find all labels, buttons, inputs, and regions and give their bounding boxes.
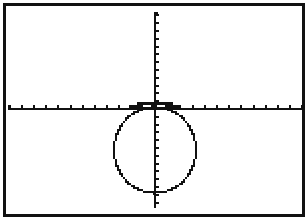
graph-canvas [0, 0, 308, 222]
calculator-graph-screen: Circle graph below x-axis [0, 0, 308, 222]
